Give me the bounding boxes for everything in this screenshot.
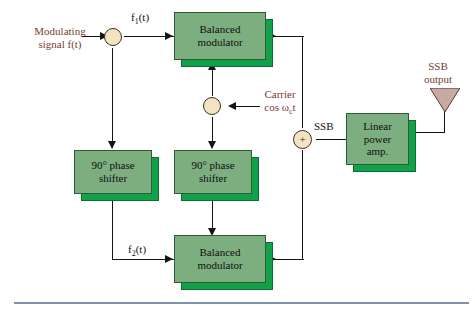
linear-power-amp-line3: amp. xyxy=(363,145,392,158)
arrow-carrier-in xyxy=(228,102,236,110)
phase-shifter-right-face: 90° phase shifter xyxy=(174,150,252,194)
carrier-line1: Carrier xyxy=(250,88,310,101)
summing-junction-symbol: + xyxy=(299,134,305,145)
ssb-output-line2: output xyxy=(409,73,467,86)
summing-junction: + xyxy=(293,130,312,149)
wire-summer-to-amp xyxy=(316,139,346,140)
carrier-line2: cos ωct xyxy=(250,101,310,117)
arrow-to-bottom-modulator xyxy=(165,255,173,263)
arrow-carrier-to-right-phase-shifter xyxy=(208,141,216,149)
antenna-triangle xyxy=(430,88,460,112)
balanced-modulator-bottom-face: Balanced modulator xyxy=(174,235,266,283)
carrier-label: Carrier cos ωct xyxy=(250,88,310,117)
phase-shifter-right-line1: 90° phase xyxy=(191,159,234,172)
f2-label: f2(t) xyxy=(128,243,146,259)
phase-shifter-left-line2: shifter xyxy=(91,172,134,185)
balanced-modulator-top-face: Balanced modulator xyxy=(174,12,266,60)
bottom-divider xyxy=(14,302,469,304)
wire-carrier-in xyxy=(232,106,260,107)
wire-junction-to-left-phase-shifter xyxy=(112,48,113,148)
phase-shifter-right-line2: shifter xyxy=(191,172,234,185)
carrier-node xyxy=(203,97,221,115)
balanced-modulator-top-line2: modulator xyxy=(197,36,242,49)
phase-shifter-left-face: 90° phase shifter xyxy=(74,150,152,194)
phase-shifter-left: 90° phase shifter xyxy=(74,150,152,194)
modulating-signal-label: Modulating signal f(t) xyxy=(12,25,108,51)
linear-power-amp-line1: Linear xyxy=(363,120,392,133)
linear-power-amp: Linear power amp. xyxy=(346,113,409,165)
balanced-modulator-top: Balanced modulator xyxy=(174,12,266,60)
balanced-modulator-top-line1: Balanced xyxy=(197,23,242,36)
modulating-signal-line2: signal f(t) xyxy=(12,38,108,51)
linear-power-amp-line2: power xyxy=(363,133,392,146)
ssb-label: SSB xyxy=(314,120,334,133)
wire-top-branch-down xyxy=(302,36,303,128)
phase-shifter-left-line1: 90° phase xyxy=(91,159,134,172)
balanced-modulator-bottom: Balanced modulator xyxy=(174,235,266,283)
wire-left-phase-shifter-down xyxy=(112,198,113,260)
wire-bottom-branch-up xyxy=(302,150,303,260)
balanced-modulator-bottom-line2: modulator xyxy=(197,259,242,272)
ssb-output-label: SSB output xyxy=(409,60,467,86)
phase-shifter-right: 90° phase shifter xyxy=(174,150,252,194)
junction-node-input xyxy=(104,28,122,46)
ssb-output-line1: SSB xyxy=(409,60,467,73)
wire-carrier-to-top-modulator xyxy=(212,68,213,96)
arrow-junction-to-top-modulator xyxy=(165,32,173,40)
antenna-icon xyxy=(430,88,460,112)
balanced-modulator-bottom-line1: Balanced xyxy=(197,246,242,259)
linear-power-amp-face: Linear power amp. xyxy=(346,113,409,165)
ssb-block-diagram: Modulating signal f(t) f1(t) f2(t) Carri… xyxy=(0,0,475,312)
arrow-junction-to-left-phase-shifter xyxy=(108,141,116,149)
f1-label: f1(t) xyxy=(131,11,149,27)
